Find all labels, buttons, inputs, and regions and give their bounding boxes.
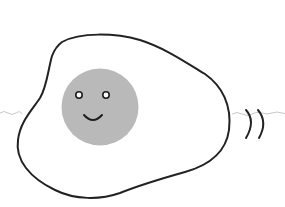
yolk [62,69,139,146]
right-eye [103,92,109,98]
fried-egg-canvas [0,0,285,207]
motion-lines [246,110,263,138]
left-eye [76,92,82,98]
